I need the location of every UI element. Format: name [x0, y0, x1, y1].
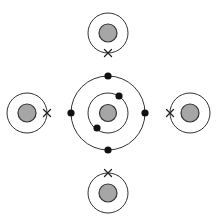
- right-atom-nucleus: [181, 104, 199, 122]
- inner-electron-upper-right: [115, 92, 122, 99]
- central-atom: [67, 72, 148, 153]
- central-nucleus: [100, 105, 117, 122]
- bonding-diagram: [0, 0, 216, 223]
- left-atom-nucleus: [18, 104, 36, 122]
- bottom-atom-nucleus: [99, 184, 117, 202]
- top-atom-nucleus: [99, 24, 117, 42]
- inner-electron-lower-left: [93, 124, 100, 131]
- top-atom: [88, 13, 128, 57]
- bottom-atom: [88, 170, 128, 214]
- outer-electron-left: [67, 109, 74, 116]
- outer-electron-bottom: [104, 146, 111, 153]
- left-atom: [7, 93, 51, 133]
- outer-electron-right: [141, 109, 148, 116]
- outer-electron-top: [104, 72, 111, 79]
- right-atom: [167, 93, 211, 133]
